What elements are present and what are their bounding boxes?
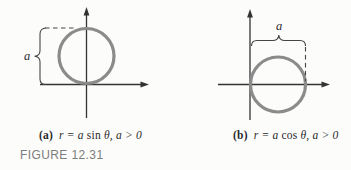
panel-a-caption-tag: (a): [39, 129, 53, 141]
panel-b-caption-tag: (b): [233, 129, 248, 141]
panel-b-y-axis-arrow-icon: [247, 9, 253, 18]
panel-b-equation-function: cos: [281, 129, 297, 141]
figure-caption: FIGURE 12.31: [20, 148, 104, 162]
panel-a-equation-open: r = a: [59, 129, 87, 141]
panel-b-equation-open: r = a: [254, 129, 282, 141]
panel-a-y-axis-arrow-icon: [84, 7, 90, 16]
panel-a-equation-close: θ, a > 0: [101, 129, 142, 141]
panel-a-radius-label: a: [24, 49, 30, 63]
panel-a-brace: [35, 28, 47, 85]
panel-b-diagram: a: [218, 9, 330, 120]
panel-a-equation-function: sin: [87, 129, 101, 141]
panel-a-diagram: a: [24, 7, 149, 118]
panel-a-x-axis-arrow-icon: [141, 82, 150, 88]
panel-b-caption: (b)r = a cos θ, a > 0: [233, 129, 339, 141]
panel-b-equation-close: θ, a > 0: [297, 129, 338, 141]
panel-b-radius-label: a: [276, 19, 282, 33]
panel-b-brace: [252, 35, 306, 46]
figure-canvas: a a: [0, 0, 351, 128]
panel-a-caption: (a)r = a sin θ, a > 0: [39, 129, 142, 141]
textbook-figure: a a (a)r = a sin θ, a > 0 (b)r = a cos θ…: [0, 0, 351, 170]
panel-b-x-axis-arrow-icon: [322, 82, 331, 88]
